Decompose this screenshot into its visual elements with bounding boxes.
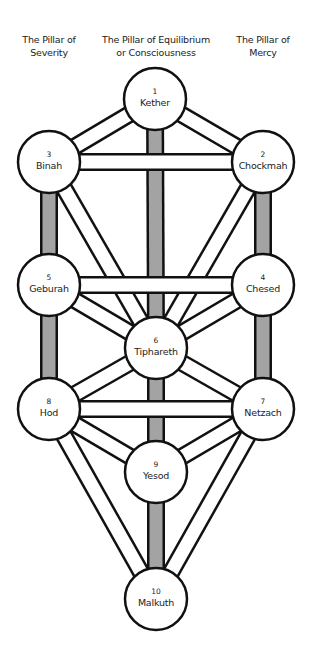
sephirah-circle-hod	[18, 378, 80, 440]
sephirah-circle-chockmah	[232, 131, 294, 193]
tree-of-life-diagram	[0, 0, 312, 670]
sephirah-circle-binah	[18, 131, 80, 193]
sephirah-circle-malkuth	[125, 568, 187, 630]
sephirah-circle-kether	[124, 68, 186, 130]
sephirah-circle-chesed	[232, 254, 294, 316]
sephirah-circle-geburah	[18, 254, 80, 316]
sephirah-circle-yesod	[125, 441, 187, 503]
sephirah-circle-netzach	[232, 378, 294, 440]
pillar-path-1-6	[155, 99, 156, 348]
sephirah-circle-tiphareth	[125, 317, 187, 379]
